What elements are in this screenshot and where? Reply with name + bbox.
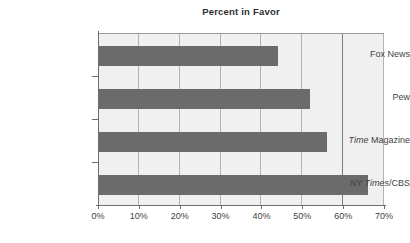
x-axis-label-0: 0% (78, 211, 118, 221)
y-tick-2 (92, 119, 99, 120)
x-axis-label-30: 30% (201, 211, 241, 221)
x-axis-label-40: 40% (241, 211, 281, 221)
x-tick-30 (221, 205, 222, 209)
bar-fox-news (98, 46, 278, 66)
x-axis-label-70: 70% (364, 211, 404, 221)
y-tick-3 (92, 162, 99, 163)
x-tick-60 (343, 205, 344, 209)
chart-title: Percent in Favor (98, 6, 384, 17)
y-axis-label-2: Time Magazine (317, 135, 410, 146)
x-axis-label-50: 50% (282, 211, 322, 221)
x-tick-50 (302, 205, 303, 209)
x-axis-label-60: 60% (323, 211, 363, 221)
y-axis-label-3: NY Times/CBS (317, 178, 410, 189)
y-tick-1 (92, 76, 99, 77)
bar-chart-figure: Percent in Favor Fox NewsPewTime Magazin… (0, 0, 410, 243)
x-axis-label-20: 20% (160, 211, 200, 221)
x-tick-70 (384, 205, 385, 209)
bar-time-magazine (98, 132, 327, 152)
y-axis-label-0: Fox News (317, 49, 410, 60)
x-tick-10 (139, 205, 140, 209)
x-tick-20 (180, 205, 181, 209)
y-axis-label-1: Pew (317, 92, 410, 103)
x-axis-label-10: 10% (119, 211, 159, 221)
bar-pew (98, 89, 310, 109)
x-tick-0 (98, 205, 99, 209)
x-tick-40 (261, 205, 262, 209)
